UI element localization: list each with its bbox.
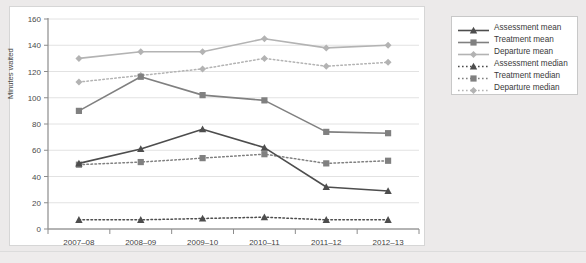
plot-svg: 0204060801001201401602007–082008–092009–… [10, 7, 426, 247]
y-tick-label: 160 [28, 15, 42, 24]
y-tick-label: 20 [32, 199, 41, 208]
series-departure-mean [75, 35, 391, 62]
y-tick-label: 100 [28, 94, 42, 103]
legend-item[interactable]: Assessment mean [457, 21, 573, 33]
legend-label: Departure median [494, 82, 560, 93]
y-tick-label: 80 [32, 120, 41, 129]
x-tick-label: 2010–11 [249, 238, 280, 247]
legend-label: Treatment median [494, 70, 560, 81]
y-tick-label: 120 [28, 68, 42, 77]
legend-item[interactable]: Treatment median [457, 69, 573, 81]
legend-swatch-triangle-icon [457, 22, 490, 33]
legend-label: Assessment median [494, 58, 568, 69]
legend-item[interactable]: Assessment median [457, 57, 573, 69]
series-treatment-mean [76, 74, 391, 137]
legend-swatch-square-icon [457, 34, 490, 45]
legend-swatch-square-icon [457, 70, 490, 81]
y-tick-label: 0 [37, 225, 42, 234]
legend-item[interactable]: Treatment mean [457, 33, 573, 45]
plot-area-card: Minutes waited 0204060801001201401602007… [9, 6, 425, 246]
series-assessment-median [75, 213, 392, 222]
y-tick-label: 140 [28, 41, 42, 50]
series-departure-median [75, 55, 391, 86]
legend-swatch-triangle-icon [457, 58, 490, 69]
x-tick-label: 2011–12 [311, 238, 342, 247]
x-tick-label: 2012–13 [373, 238, 405, 247]
legend-item[interactable]: Departure median [457, 81, 573, 93]
legend-swatch-diamond-icon [457, 46, 490, 57]
legend-swatch-diamond-icon [457, 82, 490, 93]
chart-screenshot: Minutes waited 0204060801001201401602007… [0, 0, 586, 263]
x-tick-label: 2009–10 [187, 238, 219, 247]
x-tick-label: 2007–08 [63, 238, 95, 247]
chart-legend: Assessment meanTreatment meanDeparture m… [451, 16, 578, 95]
legend-label: Departure mean [494, 46, 553, 57]
legend-label: Treatment mean [494, 34, 554, 45]
legend-item[interactable]: Departure mean [457, 45, 573, 57]
y-tick-label: 40 [32, 173, 41, 182]
x-tick-label: 2008–09 [125, 238, 157, 247]
bottom-strip [0, 252, 586, 263]
figure-frame: Minutes waited 0204060801001201401602007… [0, 0, 586, 252]
legend-label: Assessment mean [494, 22, 561, 33]
y-tick-label: 60 [32, 146, 41, 155]
series-assessment-mean [75, 126, 392, 194]
